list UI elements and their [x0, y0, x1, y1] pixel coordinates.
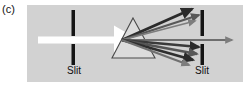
slit-label-right: Slit	[184, 65, 220, 76]
figure-container: (c)	[0, 0, 243, 89]
first-slit-top-bar	[72, 10, 76, 36]
diagram-panel: Slit Slit	[27, 5, 243, 82]
panel-label: (c)	[2, 3, 15, 16]
second-slit-bottom-bar	[201, 44, 205, 65]
slit-label-left: Slit	[56, 65, 92, 76]
second-slit-top-bar	[201, 10, 205, 36]
first-slit-bottom-bar	[72, 44, 76, 65]
